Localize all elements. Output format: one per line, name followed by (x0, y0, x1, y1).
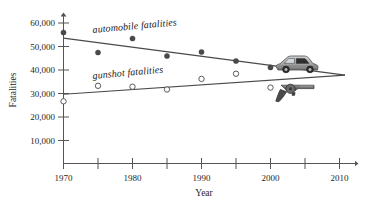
y-tick-label-10000: 10,000 (30, 136, 55, 146)
data-point (199, 76, 204, 81)
data-point (61, 30, 66, 35)
x-tick-labels: 1970 1980 1990 2000 2010 (55, 173, 350, 183)
x-tick-label-2000: 2000 (262, 173, 281, 183)
data-point (130, 36, 135, 41)
x-axis-title: Year (195, 188, 213, 198)
y-tick-label-30000: 30,000 (30, 89, 55, 99)
data-point (130, 84, 135, 89)
y-tick-label-50000: 50,000 (30, 42, 55, 52)
x-tick-label-1970: 1970 (55, 173, 74, 183)
y-tick-label-20000: 20,000 (30, 112, 55, 122)
data-point (61, 99, 66, 104)
revolver-image (276, 84, 314, 102)
data-point (233, 58, 238, 63)
automobile-data-points (61, 30, 273, 70)
fatalities-scatter-chart: 60,000 50,000 40,000 30,000 20,000 10,00… (0, 0, 369, 206)
y-tick-label-40000: 40,000 (30, 65, 55, 75)
x-axis (64, 158, 357, 169)
data-point (164, 87, 169, 92)
car-image (276, 56, 318, 73)
data-point (268, 65, 273, 70)
data-point (233, 71, 238, 76)
data-point (164, 53, 169, 58)
data-point (268, 85, 273, 90)
y-tick-labels: 60,000 50,000 40,000 30,000 20,000 10,00… (30, 18, 55, 145)
data-point (95, 83, 100, 88)
y-tick-label-60000: 60,000 (30, 18, 55, 28)
x-tick-label-1980: 1980 (124, 173, 143, 183)
y-axis (58, 15, 69, 163)
x-tick-label-2010: 2010 (331, 173, 350, 183)
x-tick-label-1990: 1990 (193, 173, 212, 183)
chart-canvas: 60,000 50,000 40,000 30,000 20,000 10,00… (0, 0, 369, 206)
data-point (199, 49, 204, 54)
data-point (95, 50, 100, 55)
y-axis-title: Fatalities (8, 72, 18, 107)
